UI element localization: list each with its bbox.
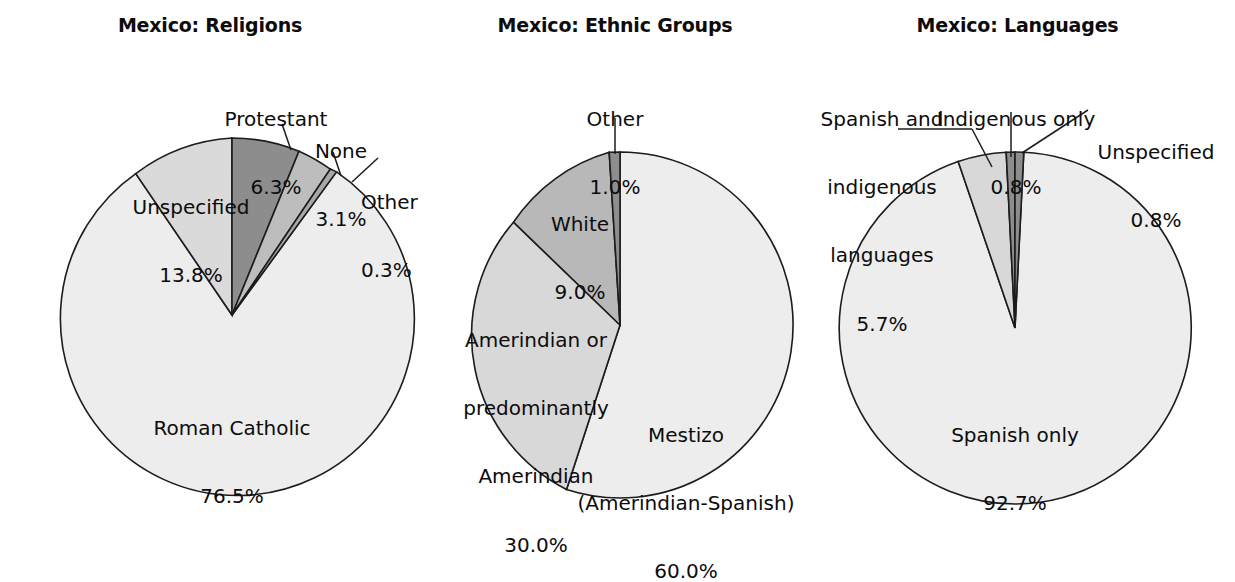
label-spanish-only: Spanish only 92.7% [915, 378, 1115, 560]
chart-panel-languages: Mexico: Languages Spanish and indigenous… [800, 0, 1235, 536]
label-indigenous-only: Indigenous only 0.8% [931, 62, 1101, 244]
label-unspecified-languages: Unspecified 0.8% [1086, 95, 1226, 277]
chart-panel-religions: Mexico: Religions Protestant 6.3% None 3… [0, 0, 420, 536]
label-mestizo: Mestizo (Amerindian-Spanish) 60.0% [563, 378, 809, 582]
label-unspecified: Unspecified 13.8% [111, 150, 271, 332]
label-roman-catholic: Roman Catholic 76.5% [112, 371, 352, 553]
chart-panel-ethnic: Mexico: Ethnic Groups Other 1.0% White 9… [415, 0, 815, 536]
